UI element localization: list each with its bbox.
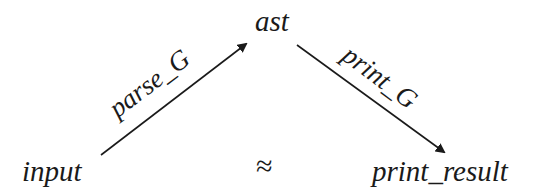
commutative-diagram: input ast print_result ≈ parse_G print_G — [0, 0, 542, 194]
node-print-result: print_result — [372, 157, 508, 186]
node-ast: ast — [255, 7, 289, 36]
node-input: input — [22, 157, 82, 186]
approx-relation-symbol: ≈ — [256, 151, 272, 181]
